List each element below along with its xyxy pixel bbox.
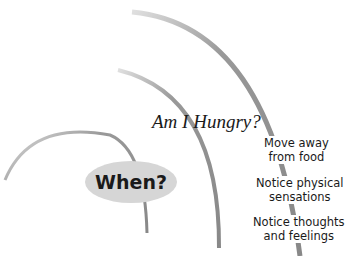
step-move-away: Move away from food (262, 136, 331, 164)
step-thoughts-feelings: Notice thoughts and feelings (251, 215, 347, 243)
arc-title: Am I Hungry? (152, 111, 261, 133)
step-line: and feelings (253, 229, 345, 243)
center-label: When? (85, 162, 177, 202)
step-physical-sensations: Notice physical sensations (254, 176, 346, 204)
step-line: Notice physical (256, 176, 344, 190)
step-line: Move away (264, 136, 329, 150)
step-line: sensations (256, 190, 344, 204)
step-line: from food (264, 150, 329, 164)
step-line: Notice thoughts (253, 215, 345, 229)
